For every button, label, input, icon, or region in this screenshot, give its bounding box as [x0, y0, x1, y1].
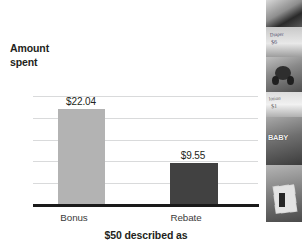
photo-thumbnail: BABY — [266, 117, 302, 165]
product-package-shape — [279, 193, 285, 207]
plot-area — [33, 96, 258, 205]
price-tag-text: lotion — [269, 96, 281, 103]
photo-thumbnail — [266, 0, 302, 27]
bar-chart-figure: Amountspent $25 $20 $15 $10 $5 $0 $22.04… — [0, 0, 266, 247]
product-package-shape — [273, 184, 298, 214]
x-axis-line — [33, 204, 259, 207]
photo-thumbnail: lotion $1 — [266, 92, 302, 117]
price-tag-amount: $1 — [271, 103, 277, 109]
y-axis-title: Amountspent — [10, 42, 80, 69]
photo-strip: Diaper $6 lotion $1 BABY — [266, 0, 302, 222]
y-axis-title-line-2: spent — [10, 56, 80, 70]
photo-thumbnail: Diaper $6 — [266, 27, 302, 57]
bar-rebate — [170, 163, 218, 205]
x-axis-title: $50 described as — [33, 229, 259, 241]
photo-thumbnail — [266, 57, 302, 92]
y-axis-title-line-1: Amount — [10, 42, 80, 56]
bar-bonus — [58, 109, 105, 205]
x-tick-label-bonus: Bonus — [34, 212, 114, 224]
x-tick-label-rebate: Rebate — [146, 212, 226, 224]
shelf-brand-text: BABY — [268, 133, 288, 142]
value-label-bonus: $22.04 — [57, 96, 105, 107]
toy-shape — [272, 76, 279, 85]
photo-thumbnail — [266, 165, 302, 222]
value-label-rebate: $9.55 — [169, 150, 217, 161]
price-tag-amount: $6 — [271, 39, 277, 45]
toy-shape — [287, 76, 294, 85]
price-tag-text: Diaper — [270, 32, 284, 39]
